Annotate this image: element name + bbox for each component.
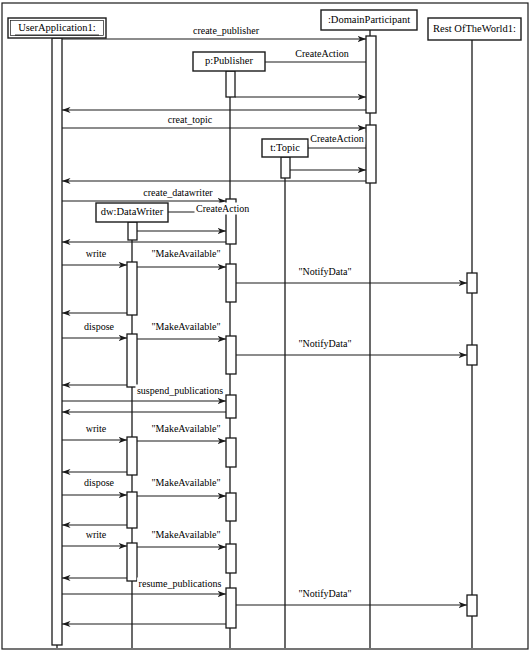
lifelines-layer <box>57 30 472 648</box>
activation-a-dp-2 <box>366 125 376 183</box>
message-label-m10: CreateAction <box>196 203 249 214</box>
message-label-m24: "MakeAvailable" <box>151 423 220 434</box>
participant-label-userapp: UserApplication1: <box>18 22 96 33</box>
activation-a-dw-create <box>128 222 137 240</box>
message-label-m33: "NotifyData" <box>298 588 351 599</box>
message-label-m21: suspend_publications <box>137 385 223 396</box>
message-label-m32: resume_publications <box>139 578 222 589</box>
activation-a-dw-w3 <box>127 543 137 581</box>
activation-a-dw-w1 <box>127 262 137 315</box>
participant-label-restworld: Rest OfTheWorld1: <box>433 23 516 34</box>
activation-a-dw-d2 <box>127 492 137 528</box>
messages-layer <box>62 39 467 624</box>
message-label-m15: "NotifyData" <box>298 266 351 277</box>
activations-layer <box>52 36 477 645</box>
activation-a-pub-res <box>226 588 236 628</box>
activation-a-rw-1 <box>467 273 477 293</box>
participant-label-publisher: p:Publisher <box>205 55 253 66</box>
message-label-m30: "MakeAvailable" <box>151 529 220 540</box>
activation-a-pub-susp <box>226 395 236 418</box>
participant-boxes-layer: UserApplication1:dw:DataWriterp:Publishe… <box>8 10 521 222</box>
activation-a-userapp <box>52 38 62 645</box>
sequence-diagram-root: UserApplication1:dw:DataWriterp:Publishe… <box>0 0 530 654</box>
message-label-m1: create_publisher <box>193 25 260 36</box>
message-label-m23: write <box>86 423 107 434</box>
activation-a-pub-w2 <box>226 438 236 467</box>
diagram-canvas: UserApplication1:dw:DataWriterp:Publishe… <box>0 0 530 654</box>
message-label-m29: write <box>86 529 107 540</box>
activation-a-dw-w2 <box>127 437 137 475</box>
activation-a-rw-3 <box>467 595 477 616</box>
message-label-m27: "MakeAvailable" <box>151 477 220 488</box>
message-label-m13: write <box>86 248 107 259</box>
message-label-m19: "NotifyData" <box>298 338 351 349</box>
diagram-border <box>2 3 528 649</box>
activation-a-rw-2 <box>467 345 477 365</box>
message-label-m2: CreateAction <box>295 48 348 59</box>
message-label-m26: dispose <box>84 477 115 488</box>
activation-a-pub-w1 <box>226 264 236 302</box>
message-label-m18: "MakeAvailable" <box>151 321 220 332</box>
activation-a-topic-create <box>281 157 290 178</box>
activation-a-pub-create <box>226 71 235 97</box>
participant-label-topic: t:Topic <box>270 142 300 153</box>
message-label-m14: "MakeAvailable" <box>151 248 220 259</box>
message-label-m5: creat_topic <box>168 114 213 125</box>
activation-a-dp-1 <box>366 36 376 113</box>
message-labels-layer: create_publisherCreateActioncreat_topicC… <box>83 25 366 600</box>
message-label-m9: create_datawriter <box>143 187 213 198</box>
activation-a-pub-d1 <box>226 336 236 374</box>
activation-a-pub-w3 <box>226 544 236 573</box>
activation-a-dw-d1 <box>127 334 137 387</box>
activation-a-pub-d2 <box>226 493 236 521</box>
message-label-m17: dispose <box>84 321 115 332</box>
message-label-m6: CreateAction <box>310 133 363 144</box>
diagram-frame <box>2 3 528 649</box>
participant-label-datawriter: dw:DataWriter <box>101 206 164 217</box>
participant-label-domainpart: :DomainParticipant <box>328 14 410 25</box>
